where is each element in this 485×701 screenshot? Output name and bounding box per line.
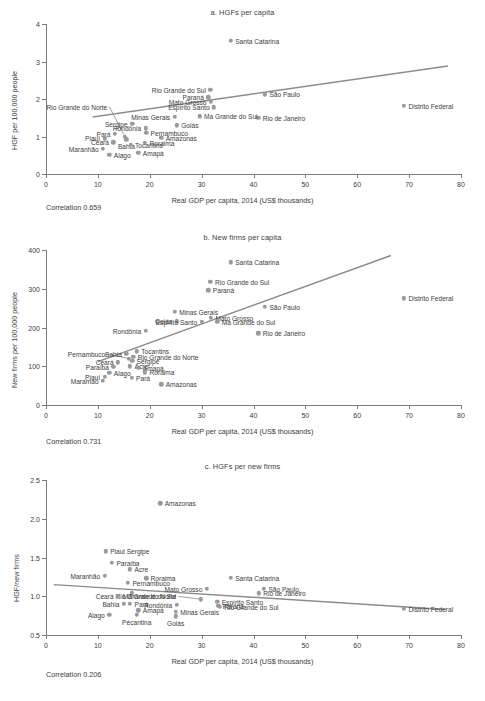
data-point-label: Espírito Santo [168, 104, 209, 111]
x-tick-label-b-2: 20 [146, 412, 154, 419]
data-point-label: São Paulo [269, 91, 299, 98]
x-tick-a-5 [305, 174, 306, 178]
data-point [175, 603, 179, 607]
x-tick-a-7 [409, 174, 410, 178]
y-axis-title-b: New firms per 100,000 people [10, 292, 19, 388]
y-tick-label-a-3: 3 [14, 58, 40, 65]
data-point [197, 114, 201, 118]
x-tick-label-c-2: 20 [146, 642, 154, 649]
data-point [198, 597, 202, 601]
x-tick-label-b-3: 30 [198, 412, 206, 419]
x-tick-label-a-3: 30 [198, 181, 206, 188]
data-point-label: Pará [136, 374, 150, 381]
data-point [205, 586, 209, 590]
data-point-label: Amazonas [166, 381, 197, 388]
data-point-label: Pernambuco [68, 351, 105, 358]
data-point-label: Rio de Janeiro [263, 114, 306, 121]
y-tick-label-a-0: 0 [14, 171, 40, 178]
data-point-label: Ma Grande do Sul [222, 319, 276, 326]
data-point [107, 613, 111, 617]
x-tick-label-c-3: 30 [198, 642, 206, 649]
y-tick-label-a-4: 4 [14, 21, 40, 28]
data-point [128, 602, 132, 606]
data-point [110, 561, 114, 565]
panel-title-c: c. HGFs per new firms [0, 462, 485, 471]
panel-title-b: b. New firms per capita [0, 233, 485, 242]
y-tick-c-1 [42, 596, 46, 597]
x-tick-b-2 [150, 405, 151, 409]
x-tick-label-b-5: 50 [301, 412, 309, 419]
data-point [256, 331, 260, 335]
data-point [135, 613, 139, 617]
x-tick-label-a-8: 80 [457, 181, 465, 188]
x-tick-label-c-6: 60 [353, 642, 361, 649]
x-tick-label-a-4: 40 [250, 181, 258, 188]
y-tick-label-c-3: 2.0 [14, 515, 40, 522]
data-point [107, 152, 111, 156]
y-tick-c-4 [42, 480, 46, 481]
data-point [209, 316, 213, 320]
x-tick-label-a-7: 70 [405, 181, 413, 188]
y-tick-a-4 [42, 24, 46, 25]
data-point [103, 549, 107, 553]
y-tick-a-0 [42, 174, 46, 175]
data-point-label: Paraná [213, 287, 234, 294]
chart-panel-c: c. HGFs per new firms010203040506070800.… [0, 460, 485, 701]
data-point [101, 146, 105, 150]
data-point [172, 309, 176, 313]
y-tick-b-3 [42, 289, 46, 290]
data-point [159, 382, 163, 386]
x-tick-label-c-8: 80 [457, 642, 465, 649]
data-point-label: Espírito Santo [156, 319, 197, 326]
y-tick-a-2 [42, 99, 46, 100]
x-tick-c-8 [461, 635, 462, 639]
data-point [113, 131, 117, 135]
y-tick-b-0 [42, 405, 46, 406]
data-point-label: Amazonas [165, 500, 196, 507]
chart-panel-b: b. New firms per capita01020304050607080… [0, 228, 485, 460]
data-point-label: Tocantins [135, 141, 163, 148]
data-point [199, 320, 203, 324]
x-tick-label-a-2: 20 [146, 181, 154, 188]
x-axis-title-c: Real GDP per capita, 2014 (US$ thousands… [0, 657, 485, 666]
x-axis-title-b: Real GDP per capita, 2014 (US$ thousands… [0, 427, 485, 436]
x-tick-label-c-7: 70 [405, 642, 413, 649]
x-tick-label-a-0: 0 [44, 181, 48, 188]
data-point-label: Rio de Janeiro [263, 330, 306, 337]
data-point [128, 567, 132, 571]
data-point [101, 379, 105, 383]
data-point-label: Ma Grande do Sul [204, 113, 258, 120]
data-point-label: Alago [114, 369, 131, 376]
data-point [143, 329, 147, 333]
y-tick-c-2 [42, 558, 46, 559]
data-point-label: Rio Grande do Sul [224, 604, 278, 611]
correlation-annotation-c: Correlation 0.206 [46, 670, 101, 679]
data-point-label: Piaul Sergipe [110, 548, 149, 555]
data-point [228, 39, 232, 43]
x-tick-a-0 [46, 174, 47, 178]
y-tick-b-2 [42, 328, 46, 329]
x-tick-label-c-1: 10 [94, 642, 102, 649]
y-tick-label-c-4: 2.5 [14, 477, 40, 484]
data-point [158, 501, 162, 505]
y-tick-a-3 [42, 62, 46, 63]
x-tick-label-b-7: 70 [405, 412, 413, 419]
data-point-label: Santa Catarina [235, 37, 279, 44]
x-tick-c-6 [357, 635, 358, 639]
y-axis-line-b [46, 250, 47, 405]
y-tick-c-0 [42, 635, 46, 636]
x-tick-label-c-0: 0 [44, 642, 48, 649]
data-point [111, 364, 115, 368]
data-point-label: Roraima [150, 369, 175, 376]
data-point-label: Minas Gerais [131, 114, 170, 121]
data-point-label: Rondônia [113, 327, 141, 334]
data-point [129, 376, 133, 380]
data-point-label: Ma Grande do Sul [123, 593, 177, 600]
x-tick-a-8 [461, 174, 462, 178]
chart-panel-a: a. HGFs per capita0102030405060708001234… [0, 0, 485, 228]
x-tick-b-4 [254, 405, 255, 409]
x-tick-label-c-4: 40 [250, 642, 258, 649]
y-axis-line-a [46, 24, 47, 174]
data-point-label: Amapá [143, 607, 164, 614]
x-tick-c-5 [305, 635, 306, 639]
